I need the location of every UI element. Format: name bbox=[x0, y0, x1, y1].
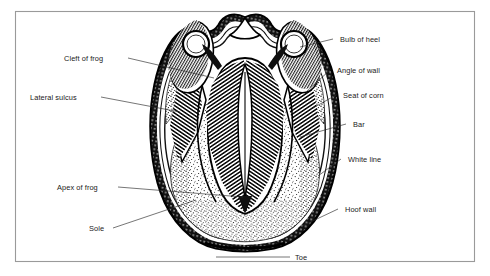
label-bar: Bar bbox=[353, 120, 365, 129]
label-apex-of-frog: Apex of frog bbox=[57, 183, 98, 192]
label-seat-of-corn: Seat of corn bbox=[343, 91, 384, 100]
label-hoof-wall: Hoof wall bbox=[345, 205, 376, 214]
label-white-line: White line bbox=[348, 155, 381, 164]
label-sole: Sole bbox=[89, 224, 104, 233]
hoof-anatomy-figure: Cleft of frog Lateral sulcus Apex of fro… bbox=[0, 0, 490, 276]
label-toe: Toe bbox=[295, 253, 307, 262]
label-cleft-of-frog: Cleft of frog bbox=[64, 54, 103, 63]
label-angle-of-wall: Angle of wall bbox=[337, 66, 380, 75]
label-lateral-sulcus: Lateral sulcus bbox=[30, 93, 77, 102]
hoof-diagram-svg: Cleft of frog Lateral sulcus Apex of fro… bbox=[0, 0, 490, 276]
label-bulb-of-heel: Bulb of heel bbox=[340, 35, 380, 44]
